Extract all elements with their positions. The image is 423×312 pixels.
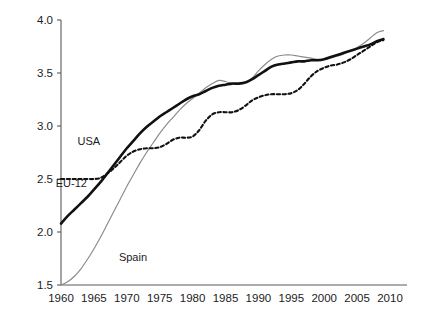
x-axis-tick-labels: 1960196519701975198019851990199520002005… xyxy=(48,292,403,304)
chart-series-annotations: USAEU-12Spain xyxy=(56,135,147,263)
y-axis-tick-labels: 1.52.02.53.03.54.0 xyxy=(37,14,53,291)
x-tick-label: 2010 xyxy=(377,292,403,304)
line-chart: 1.52.02.53.03.54.0 196019651970197519801… xyxy=(0,0,423,312)
chart-tick-marks xyxy=(57,20,61,285)
chart-axes xyxy=(61,20,407,285)
chart-canvas: 1.52.02.53.03.54.0 196019651970197519801… xyxy=(0,0,423,312)
y-tick-label: 4.0 xyxy=(37,14,53,26)
y-tick-label: 2.0 xyxy=(37,226,53,238)
y-tick-label: 2.5 xyxy=(37,173,53,185)
y-tick-label: 3.5 xyxy=(37,67,53,79)
y-tick-label: 1.5 xyxy=(37,279,53,291)
series-label-usa: USA xyxy=(77,135,100,147)
x-tick-label: 1980 xyxy=(180,292,206,304)
x-tick-label: 1960 xyxy=(48,292,74,304)
x-tick-label: 2000 xyxy=(311,292,337,304)
series-label-eu12: EU-12 xyxy=(56,177,87,189)
x-tick-label: 1975 xyxy=(147,292,173,304)
x-tick-label: 1970 xyxy=(114,292,140,304)
y-tick-label: 3.0 xyxy=(37,120,53,132)
x-tick-label: 2005 xyxy=(344,292,370,304)
series-line-usa xyxy=(61,40,383,179)
chart-series-lines xyxy=(61,31,383,285)
x-tick-label: 1990 xyxy=(246,292,272,304)
series-line-eu12 xyxy=(61,39,383,223)
x-tick-label: 1965 xyxy=(81,292,107,304)
x-tick-label: 1985 xyxy=(213,292,239,304)
series-label-spain: Spain xyxy=(119,251,147,263)
series-line-spain xyxy=(61,31,383,285)
x-tick-label: 1995 xyxy=(279,292,305,304)
